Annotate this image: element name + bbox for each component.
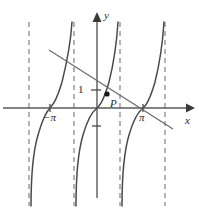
graph-canvas <box>0 0 199 208</box>
tick-label-pi: π <box>139 112 145 123</box>
tick-label-neg-pi: −π <box>43 112 56 123</box>
y-axis-arrow-icon <box>93 12 102 22</box>
tick-label-one: 1 <box>78 84 84 95</box>
secant-line <box>49 50 173 129</box>
point-p-marker <box>104 91 109 96</box>
point-p-label: P <box>110 98 117 109</box>
tangent-function-graph: y x 1 −π π P <box>0 0 199 208</box>
x-axis-arrow-icon <box>186 104 195 113</box>
secant-line-group <box>49 50 173 129</box>
y-axis-label: y <box>104 10 109 21</box>
x-axis-label: x <box>185 115 190 126</box>
